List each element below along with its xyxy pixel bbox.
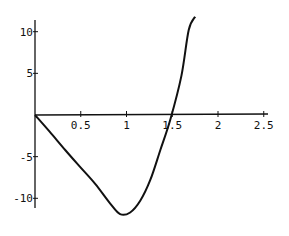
x-tick-label: 1 <box>123 119 130 132</box>
y-tick-label: -5 <box>20 151 33 164</box>
x-tick-label: 0.5 <box>71 119 91 132</box>
y-tick-label: 10 <box>20 26 33 39</box>
y-tick-label: 5 <box>26 67 33 80</box>
x-tick-label: 2 <box>215 119 222 132</box>
x-tick-label: 1.5 <box>162 119 182 132</box>
curve-line <box>35 17 195 215</box>
chart: 0.511.522.5 105-5-10 <box>0 0 289 236</box>
y-axis: 105-5-10 <box>13 20 38 208</box>
x-tick-label: 2.5 <box>254 119 274 132</box>
y-tick-label: -10 <box>13 192 33 205</box>
x-axis: 0.511.522.5 <box>35 111 274 132</box>
